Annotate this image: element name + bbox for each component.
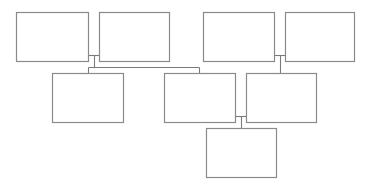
- person-boxes: [17, 13, 355, 178]
- person-box-gp1[interactable]: [17, 13, 89, 62]
- person-box-gp2[interactable]: [100, 13, 170, 62]
- person-box-parent1[interactable]: [165, 74, 236, 123]
- family-tree-diagram: [0, 0, 366, 186]
- person-box-gp4[interactable]: [286, 13, 355, 62]
- person-box-parent2[interactable]: [247, 74, 317, 123]
- person-box-grandchild[interactable]: [207, 129, 277, 178]
- person-box-child1[interactable]: [53, 74, 124, 123]
- person-box-gp3[interactable]: [204, 13, 275, 62]
